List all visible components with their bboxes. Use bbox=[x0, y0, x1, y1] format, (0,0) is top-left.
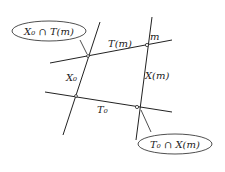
label-x0: X₀ bbox=[65, 72, 77, 83]
point-x0-tm bbox=[87, 55, 90, 58]
leader-top-left bbox=[80, 40, 87, 54]
line-t0 bbox=[45, 92, 172, 112]
label-m: m bbox=[150, 31, 159, 42]
label-xm: X(m) bbox=[144, 70, 170, 81]
point-m bbox=[145, 43, 148, 46]
leader-bottom-right bbox=[141, 110, 151, 132]
label-t0: T₀ bbox=[97, 104, 108, 115]
callout-label-bottom-right: T₀ ∩ X(m) bbox=[150, 139, 200, 150]
intersection-diagram: X₀ ∩ T(m) T₀ ∩ X(m) T(m) m X₀ X(m) T₀ bbox=[0, 0, 225, 172]
label-tm: T(m) bbox=[108, 38, 132, 49]
point-x0-t0 bbox=[75, 95, 78, 98]
point-t0-xm bbox=[135, 105, 138, 108]
callout-label-top-left: X₀ ∩ T(m) bbox=[23, 26, 74, 37]
